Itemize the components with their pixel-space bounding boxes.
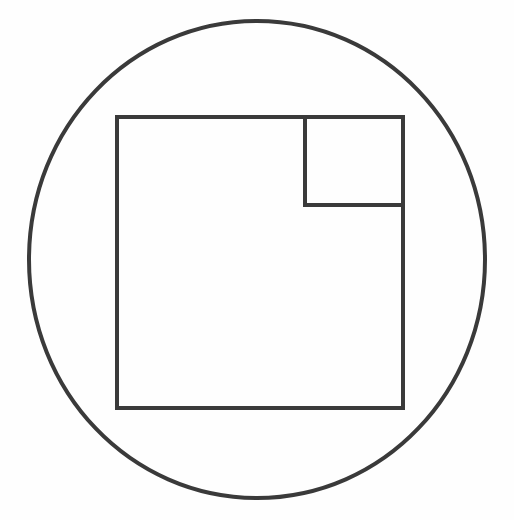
- canvas-background: [0, 0, 514, 520]
- figure-canvas: [0, 0, 514, 520]
- line-drawing-svg: [0, 0, 514, 520]
